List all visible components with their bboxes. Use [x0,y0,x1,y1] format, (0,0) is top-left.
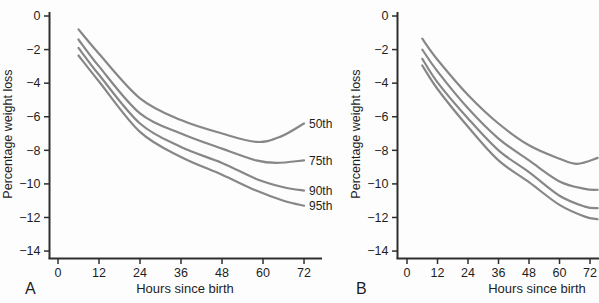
panel-a-x-tick-label: 36 [174,266,188,280]
weight-loss-chart-canvas: 0−2−4−6−8−10−12−140122436486072Hours sin… [0,0,599,303]
panel-a-y-tick-label: −6 [26,110,40,124]
panel-b-curve-50th [422,39,597,164]
panel-a-y-tick-label: −2 [26,43,40,57]
panel-b-y-tick-label: −10 [367,177,388,191]
panel-b-y-tick-label: −8 [374,144,388,158]
panel-b-x-tick-label: 36 [492,266,506,280]
panel-b-y-tick-label: −2 [374,43,388,57]
panel-a-y-tick-label: −4 [26,76,40,90]
panel-b-x-tick-label: 48 [522,266,536,280]
panel-b-x-tick-label: 72 [583,266,597,280]
panel-a-y-tick-label: −14 [19,244,40,258]
panel-a-y-tick-label: −10 [19,177,40,191]
panel-b-y-tick-label: 0 [382,9,389,23]
panel-b-x-axis-title: Hours since birth [488,281,586,296]
panel-a-curve-75th [79,40,305,163]
panel-a-curve-label-95th: 95th [309,199,332,213]
panel-a-label: A [25,280,36,297]
panel-a-x-tick-label: 12 [92,266,106,280]
panel-a-curve-50th [79,29,305,142]
panel-a-x-tick-label: 0 [55,266,62,280]
panel-a-x-tick-label: 60 [256,266,270,280]
panel-a-x-tick-label: 72 [297,266,311,280]
panel-b-x-tick-label: 24 [461,266,475,280]
panel-a-curve-label-75th: 75th [309,154,332,168]
panel-b-y-tick-label: −4 [374,76,388,90]
panel-b-label: B [356,280,367,297]
panel-b-curve-95th [422,66,597,220]
panel-a-y-tick-label: −12 [19,211,40,225]
panel-b-x-tick-label: 60 [553,266,567,280]
panel-a-curve-label-50th: 50th [309,117,332,131]
panel-b-x-tick-label: 0 [404,266,411,280]
panel-a-x-tick-label: 48 [215,266,229,280]
panel-b-y-tick-label: −14 [367,244,388,258]
panel-a-curve-label-90th: 90th [309,184,332,198]
panel-a-x-tick-label: 24 [133,266,147,280]
panel-b-y-axis-title: Percentage weight loss [349,69,363,198]
panel-b-x-tick-label: 12 [431,266,445,280]
panel-a-y-axis-title: Percentage weight loss [1,69,15,198]
panel-a-y-tick-label: −8 [26,144,40,158]
panel-a-x-axis-title: Hours since birth [136,281,234,296]
newborn-weight-loss-nomogram-figure: 0−2−4−6−8−10−12−140122436486072Hours sin… [0,0,599,303]
panel-b-y-tick-label: −12 [367,211,388,225]
panel-a-y-tick-label: 0 [34,9,41,23]
panel-b-y-tick-label: −6 [374,110,388,124]
